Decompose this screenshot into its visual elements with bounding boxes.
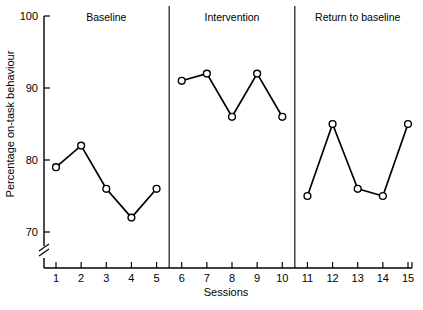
data-point-marker <box>379 193 386 200</box>
phase-label: Return to baseline <box>315 11 400 23</box>
data-point-marker <box>203 70 210 77</box>
x-axis-title: Sessions <box>204 286 249 298</box>
x-axis-tick-label: 9 <box>254 272 260 284</box>
data-point-marker <box>405 121 412 128</box>
phase-label: Baseline <box>86 11 126 23</box>
data-point-marker <box>53 164 60 171</box>
y-axis-title: Percentage on-task behaviour <box>4 50 16 197</box>
y-axis-tick-label: 70 <box>26 226 38 238</box>
y-axis-tick-label: 90 <box>26 82 38 94</box>
data-point-marker <box>78 142 85 149</box>
x-axis-tick-label: 12 <box>326 272 338 284</box>
x-axis-tick-label: 7 <box>204 272 210 284</box>
series-line <box>182 74 283 117</box>
y-axis-tick-label: 100 <box>20 10 38 22</box>
data-point-marker <box>279 113 286 120</box>
aba-reversal-line-chart: 708090100 123456789101112131415 Baseline… <box>0 0 423 310</box>
axis-titles: SessionsPercentage on-task behaviour <box>4 50 249 298</box>
x-axis-tick-label: 4 <box>128 272 134 284</box>
phase-divider-lines <box>169 6 295 268</box>
x-axis-tick-label: 5 <box>154 272 160 284</box>
x-axis-tick-label: 1 <box>53 272 59 284</box>
data-series-group <box>53 70 412 221</box>
data-point-marker <box>128 214 135 221</box>
data-series <box>178 70 285 120</box>
x-axis-tick-label: 13 <box>352 272 364 284</box>
data-point-marker <box>354 185 361 192</box>
x-axis-tick-label: 15 <box>402 272 414 284</box>
data-point-marker <box>153 185 160 192</box>
x-axis-tick-label: 8 <box>229 272 235 284</box>
data-point-marker <box>254 70 261 77</box>
x-axis: 123456789101112131415 <box>44 262 414 284</box>
x-axis-tick-label: 3 <box>103 272 109 284</box>
chart-container: 708090100 123456789101112131415 Baseline… <box>0 0 423 310</box>
phase-label: Intervention <box>205 11 260 23</box>
x-axis-tick-label: 10 <box>276 272 288 284</box>
data-point-marker <box>103 185 110 192</box>
x-axis-tick-label: 14 <box>377 272 389 284</box>
data-series <box>53 142 160 221</box>
x-axis-tick-label: 11 <box>302 272 313 284</box>
data-point-marker <box>304 193 311 200</box>
x-axis-tick-label: 6 <box>179 272 185 284</box>
data-point-marker <box>178 77 185 84</box>
y-axis-tick-label: 80 <box>26 154 38 166</box>
data-point-marker <box>329 121 336 128</box>
data-point-marker <box>229 113 236 120</box>
y-axis: 708090100 <box>20 10 50 268</box>
phase-labels: BaselineInterventionReturn to baseline <box>86 11 400 23</box>
x-axis-tick-label: 2 <box>78 272 84 284</box>
data-series <box>304 121 411 200</box>
series-line <box>56 146 157 218</box>
